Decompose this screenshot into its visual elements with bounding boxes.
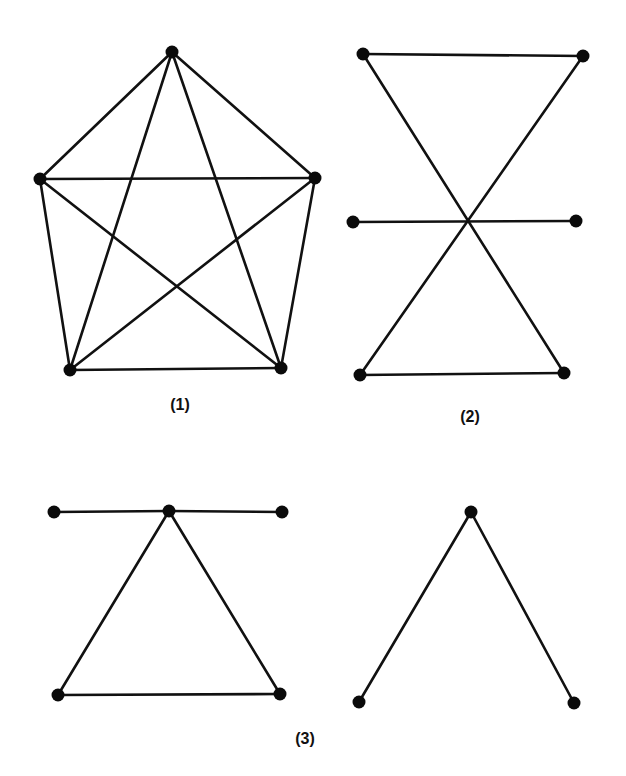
graph-vertex: [353, 696, 366, 709]
figure-label-3: (3): [295, 730, 315, 748]
graph-vertex: [577, 50, 590, 63]
graph-edges: [40, 52, 583, 703]
graph-edge: [70, 178, 315, 370]
graph-vertex: [558, 367, 571, 380]
graph-vertex: [34, 173, 47, 186]
graph-vertex: [357, 48, 370, 61]
graph-diagram-canvas: [0, 0, 626, 776]
graph-vertex: [465, 506, 478, 519]
graph-edge: [40, 178, 315, 179]
figure-label-2: (2): [460, 408, 480, 426]
graph-vertex: [275, 362, 288, 375]
graph-vertex: [52, 689, 65, 702]
graph-edge: [40, 179, 281, 368]
graph-edge: [360, 373, 564, 375]
graph-edge: [70, 368, 281, 370]
graph-vertex: [48, 506, 61, 519]
graph-edge: [471, 512, 574, 703]
graph-edge: [40, 179, 70, 370]
graph-edge: [58, 511, 169, 695]
graph-edge: [359, 512, 471, 702]
graph-vertex: [166, 46, 179, 59]
graph-vertex: [347, 216, 360, 229]
graph-vertex: [309, 172, 322, 185]
graph-edge: [363, 54, 564, 373]
graph-nodes: [34, 46, 590, 710]
graph-vertex: [568, 697, 581, 710]
graph-vertex: [276, 506, 289, 519]
graph-edge: [281, 178, 315, 368]
figure-label-1: (1): [170, 396, 190, 414]
graph-vertex: [163, 505, 176, 518]
graph-edge: [169, 511, 280, 694]
graph-edge: [169, 511, 282, 512]
graph-vertex: [354, 369, 367, 382]
graph-vertex: [570, 215, 583, 228]
graph-edge: [363, 54, 583, 56]
graph-edge: [54, 511, 169, 512]
graph-edge: [353, 221, 576, 222]
graph-edge: [58, 694, 280, 695]
graph-vertex: [64, 364, 77, 377]
graph-vertex: [274, 688, 287, 701]
